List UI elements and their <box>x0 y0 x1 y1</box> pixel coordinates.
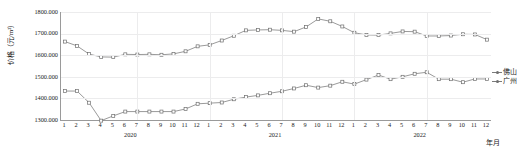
vertical-gridline <box>282 12 283 120</box>
data-point-marker <box>437 34 440 37</box>
vertical-gridline <box>427 12 428 120</box>
data-point-marker <box>486 77 489 80</box>
y-axis-tick-label: 1500.000 <box>16 74 58 80</box>
data-point-marker <box>196 45 199 48</box>
y-axis-tick-label: 1800.000 <box>16 9 58 15</box>
vertical-gridline <box>354 12 355 120</box>
data-point-marker <box>365 78 368 81</box>
price-line-chart: 价格（元/m²） 1300.0001400.0001500.0001600.00… <box>0 0 525 158</box>
data-point-marker <box>413 72 416 75</box>
x-axis-tick-label: 12 <box>478 122 494 128</box>
data-point-marker <box>256 28 259 31</box>
data-point-marker <box>148 110 151 113</box>
y-axis-tick-label: 1400.000 <box>16 95 58 101</box>
legend-marker-icon <box>492 68 502 77</box>
series-line <box>65 72 487 120</box>
data-point-marker <box>268 28 271 31</box>
data-point-marker <box>256 94 259 97</box>
data-point-marker <box>184 50 187 53</box>
data-point-marker <box>341 80 344 83</box>
data-point-marker <box>486 38 489 41</box>
data-point-marker <box>76 44 79 47</box>
data-point-marker <box>196 102 199 105</box>
data-point-marker <box>401 30 404 33</box>
data-point-marker <box>437 78 440 81</box>
vertical-gridline <box>210 12 211 120</box>
x-axis-year-label: 2020 <box>110 132 150 138</box>
legend-item-label: 佛山 <box>502 69 517 76</box>
data-point-marker <box>160 110 163 113</box>
legend-item-label: 广州 <box>502 78 517 85</box>
data-point-marker <box>329 84 332 87</box>
y-axis-tick-labels: 1300.0001400.0001500.0001600.0001700.000… <box>0 0 58 158</box>
legend-item-1[interactable]: 佛山 <box>492 68 525 77</box>
data-point-marker <box>293 87 296 90</box>
chart-legend: 佛山广州 <box>492 68 525 86</box>
x-axis-year-labels: 202020212022 <box>60 132 490 144</box>
legend-marker-icon <box>492 77 502 86</box>
data-point-marker <box>220 101 223 104</box>
data-point-marker <box>88 101 91 104</box>
data-point-marker <box>64 40 67 43</box>
series-2 <box>64 71 489 122</box>
series-1 <box>64 17 489 58</box>
x-axis-unit-label: 年月 <box>486 137 500 147</box>
data-point-marker <box>268 92 271 95</box>
data-point-marker <box>64 90 67 93</box>
plot-inner <box>61 12 491 120</box>
data-point-marker <box>124 110 127 113</box>
data-point-marker <box>389 78 392 81</box>
legend-item-2[interactable]: 广州 <box>492 77 525 86</box>
y-axis-tick-label: 1300.000 <box>16 117 58 123</box>
x-axis-year-label: 2022 <box>400 132 440 138</box>
data-point-marker <box>341 25 344 28</box>
data-point-marker <box>184 107 187 110</box>
data-point-marker <box>76 90 79 93</box>
data-point-marker <box>329 20 332 23</box>
data-point-marker <box>317 86 320 89</box>
data-point-marker <box>232 34 235 37</box>
data-point-marker <box>305 84 308 87</box>
data-point-marker <box>172 110 175 113</box>
data-point-marker <box>112 114 115 117</box>
data-point-marker <box>220 39 223 42</box>
data-point-marker <box>461 81 464 84</box>
vertical-gridline <box>137 12 138 120</box>
data-point-marker <box>473 77 476 80</box>
series-line <box>65 19 487 57</box>
data-point-marker <box>305 25 308 28</box>
data-point-marker <box>449 78 452 81</box>
y-axis-tick-label: 1600.000 <box>16 52 58 58</box>
y-axis-tick-label: 1700.000 <box>16 30 58 36</box>
x-axis-year-label: 2021 <box>255 132 295 138</box>
plot-area <box>60 12 491 121</box>
data-point-marker <box>244 29 247 32</box>
data-point-marker <box>317 17 320 20</box>
